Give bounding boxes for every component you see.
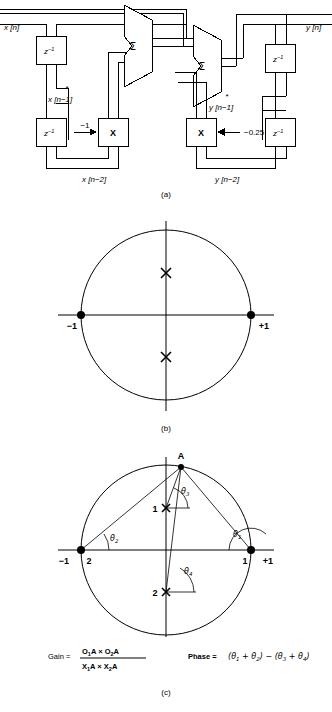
input-label: x [n] [3,23,20,32]
figure-container: x [n] y [n] z−1 z−1 z−1 z−1 Σ Σ X X −1 −… [0,0,332,712]
theta3-label: θ3 [181,487,190,497]
left-tap1-star: * [65,84,68,93]
gain-denominator: X1A × X2A [82,662,118,672]
theta1-label: θ1 [233,530,241,540]
axis-label-plus-one-c: +1 [263,556,273,566]
pole-zero-plot-b: −1 +1 (b) [0,205,332,437]
caption-c: (c) [161,688,171,697]
gain-formula-label: Gain = [48,652,71,661]
vector-pole2-to-a [166,467,181,592]
right-yn2-path [196,146,275,168]
gain-formula: Gain = O1A × O2A X1A × X2A [48,647,146,672]
left-tap2-label: x [n−2] [81,175,107,184]
axis-label-minus-one-c: −1 [59,556,69,566]
coefficient-right-label: −0.25 [244,128,265,137]
coefficient-left-label: −1 [80,121,90,130]
zero1-index-label: 1 [242,556,247,566]
multiplier-left-label: X [110,128,116,138]
zero2-index-label: 2 [86,556,91,566]
left-xn2-path-inner [56,146,108,158]
zero-marker-minus-one-c [77,546,85,554]
right-yn2-path-inner [206,146,286,158]
gain-numerator: O1A × O2A [82,647,120,657]
pole1-index-label: 1 [152,504,157,514]
adder-right-shape [193,25,221,107]
phase-formula: Phase = (θ1 + θ2) − (θ3 + θ4) [188,652,310,662]
block-diagram-a: x [n] y [n] z−1 z−1 z−1 z−1 Σ Σ X X −1 −… [0,0,332,200]
caption-a: (a) [161,190,171,199]
point-a-label: A [178,451,185,461]
zero-marker-minus-one [77,311,85,319]
phase-formula-expression: (θ1 + θ2) − (θ3 + θ4) [228,652,310,662]
right-tap2-label: y [n−2] [214,175,240,184]
point-a-marker [178,464,184,470]
adder-left-label: Σ [130,41,136,52]
coef-left-arrowhead [90,129,96,135]
geometric-plot-c: A −1 +1 2 1 1 2 θ1 θ2 θ3 θ4 Gain = O1A ×… [0,437,332,712]
coef-right-arrowhead [218,129,224,135]
theta4-label: θ4 [184,567,193,577]
adder-right-label: Σ [199,61,205,72]
arc-theta2 [104,534,109,550]
axis-label-minus-one-b: −1 [67,321,77,331]
zero-marker-plus-one-c [247,546,255,554]
axis-label-plus-one-b: +1 [259,321,269,331]
right-tap1-star: * [225,92,228,101]
zero-marker-plus-one [247,311,255,319]
multiplier-right-label: X [198,128,204,138]
output-label: y [n] [305,23,322,32]
theta2-label: θ2 [110,534,119,544]
left-xn2-path [46,146,118,168]
phase-formula-label: Phase = [188,652,217,661]
adder-left-shape [124,5,152,87]
caption-b: (b) [161,424,171,433]
pole2-index-label: 2 [152,588,157,598]
right-tap1-label: y [n−1] [208,103,234,112]
left-tap1-label: x [n−1] [47,95,73,104]
